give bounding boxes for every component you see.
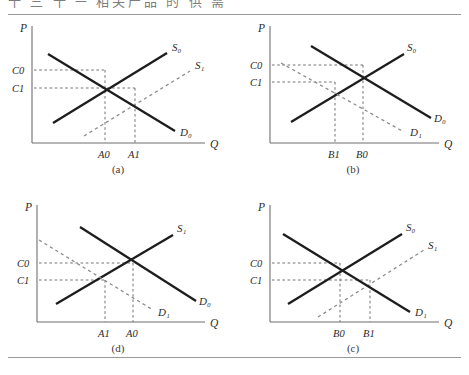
panel-c-price-axis-label: P	[257, 201, 265, 213]
panel-a-label-S0: S₀	[172, 41, 182, 53]
panel-c: P Q S₀ S₁ D₁ C0 C1 B0 B1	[234, 197, 469, 357]
figure-page: 十 三 十 ㅡ 相关产品 的 供 需 P Q S₀ S₁ D₀ C0 C1	[0, 0, 469, 375]
panel-c-ticklabel-C0: C0	[250, 258, 263, 269]
panel-c-quantity-axis-label: Q	[444, 317, 453, 329]
panel-d-ticklabel-A1: A1	[97, 328, 110, 339]
panel-a-ticklabel-C0: C0	[12, 65, 25, 76]
panel-c-curve-D1	[283, 234, 410, 312]
panel-d-curve-S1	[56, 235, 173, 304]
panel-b-caption: (b)	[333, 163, 373, 175]
panel-b-label-S0: S₀	[407, 41, 417, 53]
panel-c-ticklabel-C1: C1	[250, 275, 262, 286]
panel-d: P Q S₁ D₀ D₁ C0 C1 A1 A0	[0, 197, 234, 357]
panel-a-label-S1: S₁	[195, 59, 205, 71]
panel-c-label-S0: S₀	[406, 221, 416, 233]
bottom-divider-rule	[8, 357, 461, 358]
panel-a-ticklabel-C1: C1	[12, 83, 24, 94]
panel-b-quantity-axis-label: Q	[444, 138, 453, 150]
panel-c-caption: (c)	[333, 342, 373, 354]
panel-a-quantity-axis-label: Q	[210, 138, 219, 150]
panel-a-ticklabel-A0: A0	[97, 149, 110, 160]
panel-c-label-D1: D₁	[414, 306, 427, 318]
panel-a-curve-S0	[53, 53, 167, 123]
panel-a-price-axis-label: P	[19, 22, 27, 34]
panel-b-label-D0: D₀	[433, 112, 446, 124]
panel-c-ticklabel-B1: B1	[363, 328, 375, 339]
top-divider-rule	[8, 14, 461, 15]
panel-b-ticklabel-B1: B1	[328, 149, 340, 160]
panel-a-ticklabel-A1: A1	[127, 149, 140, 160]
panel-c-curve-S0	[288, 234, 402, 304]
panel-d-curve-D0	[80, 227, 196, 301]
panel-d-label-D0: D₀	[198, 295, 211, 307]
panel-b: P Q S₀ D₀ D₁ C0 C1 B1 B0	[234, 18, 469, 178]
panel-a-label-D0: D₀	[179, 126, 192, 138]
panel-c-ticklabel-B0: B0	[333, 328, 345, 339]
panel-a-caption: (a)	[98, 163, 138, 175]
panel-d-caption: (d)	[98, 342, 138, 354]
panel-b-ticklabel-C1: C1	[250, 77, 262, 88]
panel-d-ticklabel-C1: C1	[17, 275, 29, 286]
panel-b-curve-D0	[311, 46, 431, 118]
panel-c-label-S1: S₁	[428, 239, 438, 251]
page-heading: 十 三 十 ㅡ 相关产品 的 供 需	[8, 0, 227, 10]
panel-a: P Q S₀ S₁ D₀ C0 C1 A0 A1	[0, 18, 234, 178]
panel-b-ticklabel-C0: C0	[250, 60, 263, 71]
panel-d-ticklabel-C0: C0	[17, 258, 30, 269]
panel-d-label-S1: S₁	[177, 222, 187, 234]
panel-c-curve-S1	[318, 250, 424, 317]
panel-b-curve-S0	[291, 54, 404, 122]
panel-d-ticklabel-A0: A0	[125, 328, 138, 339]
panel-a-curve-S1	[84, 71, 190, 136]
panel-d-price-axis-label: P	[24, 201, 32, 213]
panel-d-quantity-axis-label: Q	[210, 317, 219, 329]
panel-d-curve-D1	[39, 240, 153, 310]
panel-d-label-D1: D₁	[157, 306, 170, 318]
panel-b-label-D1: D₁	[409, 126, 422, 138]
panel-b-price-axis-label: P	[257, 22, 265, 34]
panel-b-curve-D1	[281, 63, 404, 132]
panel-b-ticklabel-B0: B0	[356, 149, 368, 160]
